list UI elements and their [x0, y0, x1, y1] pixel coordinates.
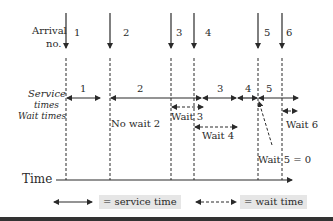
service-times-label: Service [28, 89, 66, 99]
arrival-number: 5 [264, 28, 270, 38]
arrival-arrows [66, 13, 282, 48]
wait-label-3: Wait 3 [171, 112, 203, 122]
arrival-label: Arrival [32, 26, 67, 36]
time-axis-label: Time [22, 173, 52, 185]
service-label: 4 [245, 84, 251, 94]
bottom-border [0, 217, 333, 221]
service-label: 2 [137, 84, 143, 94]
arrival-number: 1 [74, 28, 80, 38]
wait-label-2: No wait 2 [111, 119, 160, 129]
service-label: 1 [80, 84, 86, 94]
service-label: 3 [217, 84, 223, 94]
wait-label-4: Wait 4 [202, 131, 234, 141]
arrival-number: 6 [286, 28, 292, 38]
service-times-label-2: times [34, 100, 59, 110]
legend-service-label: = service time [99, 195, 181, 209]
arrival-number: 4 [205, 28, 211, 38]
arrival-number: 3 [176, 28, 182, 38]
wait-times-label: Wait times [18, 111, 66, 121]
service-label: 5 [266, 84, 272, 94]
wait-label-5: Wait 5 = 0 [258, 155, 311, 165]
arrival-no-label: no. [46, 39, 61, 49]
legend-wait-label: = wait time [240, 195, 307, 209]
wait-label-6: Wait 6 [286, 120, 318, 130]
wait-time-arrows [172, 102, 297, 145]
arrival-number: 2 [123, 28, 129, 38]
